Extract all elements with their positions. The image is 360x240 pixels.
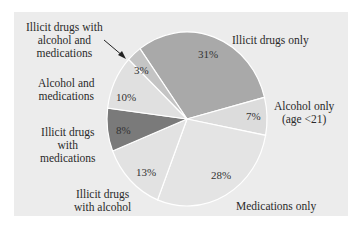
- label-illicit-drugs-only: Illicit drugs only: [232, 34, 309, 47]
- label-text: medications: [40, 152, 96, 165]
- label-text: Medications only: [236, 200, 316, 212]
- label-illicit-drugs-with-alcohol-and-medications: Illicit drugs with alcohol and medicatio…: [26, 21, 103, 60]
- label-text: medications: [38, 90, 95, 103]
- percent-illicit-drugs-with-alcohol: 13%: [136, 166, 156, 178]
- label-medications-only: Medications only: [236, 200, 316, 213]
- label-illicit-drugs-with-alcohol: Illicit drugs with alcohol: [74, 188, 131, 214]
- pie-slices: [107, 32, 267, 206]
- label-text: Alcohol only: [274, 100, 334, 113]
- label-text: Illicit drugs: [74, 188, 131, 201]
- percent-alcohol-and-medications: 10%: [116, 91, 136, 103]
- label-text: with: [40, 139, 96, 152]
- arrow-icon: [104, 40, 126, 59]
- label-text: with alcohol: [74, 201, 131, 214]
- label-text: Alcohol and: [38, 77, 95, 90]
- label-text: Illicit drugs: [40, 126, 96, 139]
- percent-illicit-drugs-only: 31%: [198, 48, 218, 60]
- percent-medications-only: 28%: [211, 169, 231, 181]
- label-text: alcohol and: [26, 34, 103, 47]
- percent-illicit-drugs-with-alcohol-and-medications: 3%: [134, 64, 149, 76]
- label-text: (age <21): [274, 113, 334, 126]
- percent-alcohol-only: 7%: [246, 110, 261, 122]
- label-text: Illicit drugs only: [232, 34, 309, 46]
- label-text: Illicit drugs with: [26, 21, 103, 34]
- label-illicit-drugs-with-medications: Illicit drugs with medications: [40, 126, 96, 165]
- label-alcohol-only: Alcohol only (age <21): [274, 100, 334, 126]
- percent-illicit-drugs-with-medications: 8%: [116, 124, 131, 136]
- label-text: medications: [26, 47, 103, 60]
- label-alcohol-and-medications: Alcohol and medications: [38, 77, 95, 103]
